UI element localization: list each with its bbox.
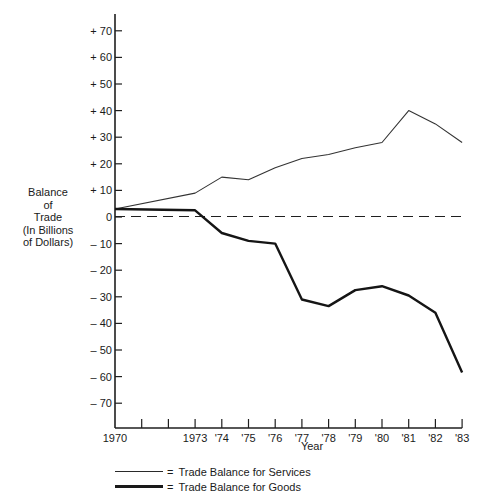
y-axis-title-line: of <box>2 199 94 212</box>
y-tick-label: – 20 <box>91 264 112 276</box>
x-tick-label: '79 <box>348 432 362 444</box>
y-tick-label: – 40 <box>91 317 112 329</box>
legend-equals: = <box>167 466 173 478</box>
services-series-line <box>115 111 462 209</box>
y-axis-title-line: (In Billions <box>2 224 94 237</box>
y-tick-label: + 30 <box>90 131 112 143</box>
y-tick-label: – 60 <box>91 371 112 383</box>
y-tick-label: – 70 <box>91 397 112 409</box>
series-lines <box>115 111 462 373</box>
thin-line-swatch-icon <box>115 471 163 472</box>
legend-item-goods: = Trade Balance for Goods <box>115 479 311 494</box>
y-tick-label: + 20 <box>90 158 112 170</box>
y-tick-label: – 50 <box>91 344 112 356</box>
y-tick-label: + 50 <box>90 78 112 90</box>
goods-series-line <box>115 209 462 373</box>
x-axis-title: Year <box>301 440 324 452</box>
x-tick-label: '81 <box>402 432 416 444</box>
legend-label-goods: Trade Balance for Goods <box>178 481 301 493</box>
y-axis-title-line: Balance <box>2 186 94 199</box>
legend-label-services: Trade Balance for Services <box>178 466 310 478</box>
x-tick-label: 1973 <box>183 432 207 444</box>
line-chart: + 70+ 60+ 50+ 40+ 30+ 20+ 100– 10– 20– 3… <box>0 0 482 504</box>
legend-equals: = <box>167 481 173 493</box>
x-tick-label: '80 <box>375 432 389 444</box>
x-tick-label: '78 <box>321 432 335 444</box>
y-tick-label: – 30 <box>91 291 112 303</box>
x-tick-label: '76 <box>268 432 282 444</box>
x-tick-label: '74 <box>215 432 229 444</box>
x-axis: 19701973'74'75'76'77'78'79'80'81'82'83 <box>103 419 470 444</box>
y-axis-title-line: of Dollars) <box>2 236 94 249</box>
y-tick-label: + 60 <box>90 51 112 63</box>
thick-line-swatch-icon <box>115 485 163 488</box>
legend: = Trade Balance for Services = Trade Bal… <box>115 464 311 494</box>
y-axis-title-line: Trade <box>2 211 94 224</box>
legend-item-services: = Trade Balance for Services <box>115 464 311 479</box>
y-tick-label: + 40 <box>90 105 112 117</box>
y-axis: + 70+ 60+ 50+ 40+ 30+ 20+ 100– 10– 20– 3… <box>90 14 122 428</box>
y-tick-label: 0 <box>106 211 112 223</box>
y-tick-label: + 70 <box>90 25 112 37</box>
x-tick-label: 1970 <box>103 432 127 444</box>
x-tick-label: '83 <box>455 432 469 444</box>
y-axis-title: Balance of Trade (In Billions of Dollars… <box>2 186 94 249</box>
x-tick-label: '82 <box>428 432 442 444</box>
x-tick-label: '75 <box>241 432 255 444</box>
